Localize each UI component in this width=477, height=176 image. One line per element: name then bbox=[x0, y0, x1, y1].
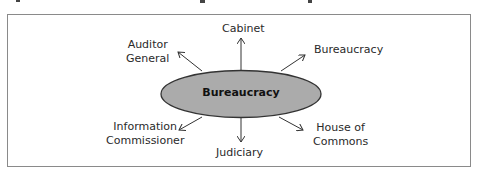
node-auditor-general: Auditor General bbox=[126, 38, 169, 66]
arrow-to-bureaucracy bbox=[281, 55, 305, 71]
node-cabinet: Cabinet bbox=[222, 22, 265, 36]
arrow-to-house-of-commons bbox=[279, 117, 303, 130]
node-information-commissioner: Information Commissioner bbox=[106, 120, 184, 148]
arrow-to-auditor-general bbox=[178, 52, 202, 71]
node-bureaucracy-right: Bureaucracy bbox=[314, 43, 383, 57]
node-house-of-commons: House of Commons bbox=[313, 121, 368, 149]
center-label: Bureaucracy bbox=[161, 86, 321, 99]
node-judiciary: Judiciary bbox=[216, 146, 263, 160]
